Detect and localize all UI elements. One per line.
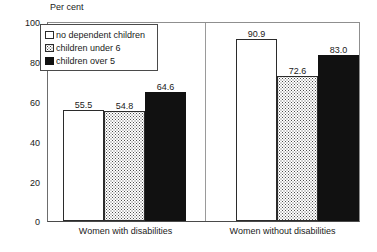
- bar-value-g1-children-over-5: 64.6: [145, 83, 186, 92]
- x-axis-category-women-with-disabilities: Women with disabilities: [47, 226, 204, 237]
- y-axis-tick-40: 40: [2, 139, 40, 148]
- category-separator: [205, 23, 206, 221]
- y-axis-tick-0: 0: [2, 218, 40, 227]
- y-axis-title: Per cent: [50, 2, 84, 13]
- bar-g1-no-dependent-children: [63, 110, 104, 221]
- x-axis-category-women-without-disabilities: Women without disabilities: [204, 226, 361, 237]
- bar-value-g1-no-dependent-children: 55.5: [63, 101, 104, 110]
- bar-value-g1-children-under-6: 54.8: [104, 102, 145, 111]
- legend-swatch-white-icon: [45, 31, 54, 39]
- bar-value-g2-children-under-6: 72.6: [277, 67, 318, 76]
- bar-chart: Per cent 100 80 60 40 20 0 55.5 54.8 64.…: [0, 0, 377, 252]
- bar-g2-children-under-6: [277, 76, 318, 221]
- y-axis-tick-100: 100: [2, 19, 40, 28]
- legend-swatch-black-icon: [45, 57, 54, 65]
- bar-g2-children-over-5: [318, 55, 359, 221]
- legend-item-no-dependent-children: no dependent children: [45, 28, 153, 41]
- legend-label-no-dependent-children: no dependent children: [56, 30, 145, 40]
- legend-label-children-under-6: children under 6: [56, 43, 121, 53]
- legend-item-children-over-5: children over 5: [45, 54, 153, 67]
- y-axis-tick-20: 20: [2, 179, 40, 188]
- bar-g2-no-dependent-children: [236, 39, 277, 221]
- legend-item-children-under-6: children under 6: [45, 41, 153, 54]
- bar-value-g2-no-dependent-children: 90.9: [236, 30, 277, 39]
- legend-label-children-over-5: children over 5: [56, 56, 115, 66]
- bar-value-g2-children-over-5: 83.0: [318, 46, 359, 55]
- y-axis-tick-60: 60: [2, 99, 40, 108]
- legend-swatch-dotted-icon: [45, 44, 54, 52]
- bar-g1-children-under-6: [104, 111, 145, 221]
- y-axis-tick-80: 80: [2, 59, 40, 68]
- bar-g1-children-over-5: [145, 92, 186, 221]
- legend: no dependent children children under 6 c…: [40, 24, 158, 71]
